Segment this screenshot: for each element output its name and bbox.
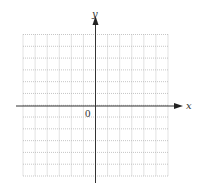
x-axis-label: x [186,100,192,111]
axes [16,16,183,183]
y-axis-label: y [91,8,98,19]
coordinate-plane: y x 0 [0,0,201,188]
x-axis-arrow-icon [174,103,183,109]
origin-label: 0 [85,107,91,119]
